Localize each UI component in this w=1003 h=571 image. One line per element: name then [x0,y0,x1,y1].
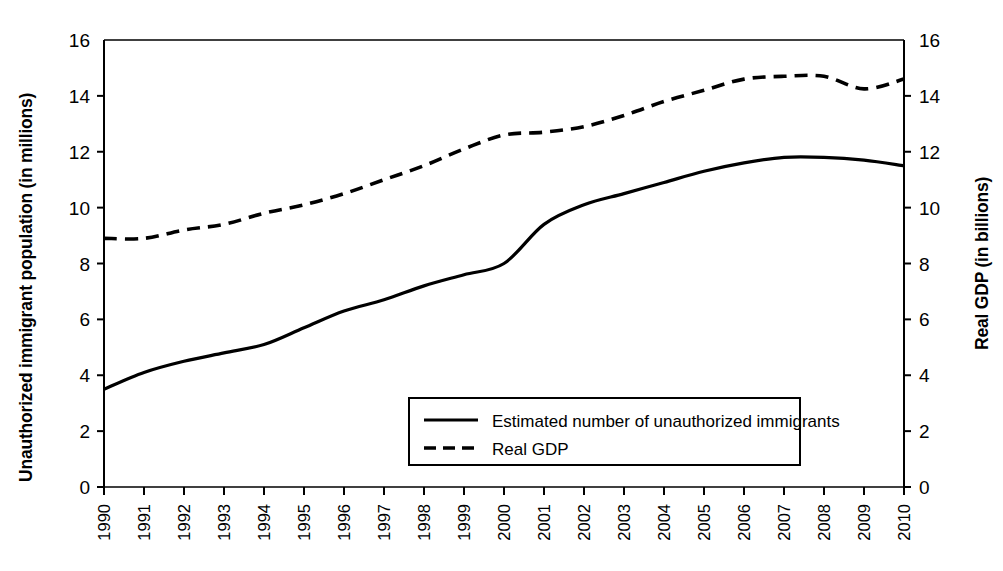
x-tick-label: 2006 [735,504,753,541]
left-tick-label: 14 [69,86,91,107]
right-tick-label: 16 [919,30,940,51]
x-tick-label: 1993 [215,504,233,541]
right-tick-label: 6 [919,309,930,330]
left-axis-ticks: 0246810121416 [69,30,104,498]
x-tick-label: 1991 [135,504,153,541]
x-axis-ticks: 1990199119921993199419951996199719981999… [95,487,913,541]
left-axis-title: Unauthorized immigrant population (in mi… [16,93,36,482]
series-line-unauthorized-immigrants [104,157,904,389]
left-tick-label: 4 [79,365,90,386]
right-tick-label: 8 [919,254,930,275]
right-tick-label: 2 [919,421,930,442]
left-tick-label: 12 [69,142,90,163]
x-tick-label: 1990 [95,504,113,541]
right-axis-ticks: 0246810121416 [904,30,941,498]
legend-box [409,398,800,465]
x-tick-label: 2002 [575,504,593,541]
right-axis-title: Real GDP (in billions) [972,177,992,350]
left-tick-label: 10 [69,198,90,219]
x-tick-label: 1992 [175,504,193,541]
x-tick-label: 2009 [855,504,873,541]
x-tick-label: 2010 [895,504,913,541]
x-tick-label: 2003 [615,504,633,541]
x-tick-label: 2005 [695,504,713,541]
x-tick-label: 1994 [255,504,273,541]
right-tick-label: 10 [919,198,940,219]
legend-item-label-real-gdp: Real GDP [492,440,569,459]
series-layer [104,75,904,389]
legend-item-label-estimated-immigrants: Estimated number of unauthorized immigra… [492,412,840,431]
x-tick-label: 1999 [455,504,473,541]
right-tick-label: 0 [919,477,930,498]
x-tick-label: 2001 [535,504,553,541]
x-tick-label: 2007 [775,504,793,541]
left-tick-label: 0 [79,477,90,498]
x-tick-label: 1998 [415,504,433,541]
left-tick-label: 16 [69,30,90,51]
right-tick-label: 4 [919,365,930,386]
left-tick-label: 8 [79,254,90,275]
left-tick-label: 6 [79,309,90,330]
chart-figure: Unauthorized immigrant population (in mi… [0,0,1003,571]
x-tick-label: 2000 [495,504,513,541]
x-tick-label: 1996 [335,504,353,541]
x-tick-label: 1995 [295,504,313,541]
right-tick-label: 14 [919,86,941,107]
x-tick-label: 1997 [375,504,393,541]
chart-legend: Estimated number of unauthorized immigra… [409,398,840,465]
x-tick-label: 2008 [815,504,833,541]
dual-axis-line-chart: Unauthorized immigrant population (in mi… [0,0,1003,571]
right-tick-label: 12 [919,142,940,163]
left-tick-label: 2 [79,421,90,442]
x-tick-label: 2004 [655,504,673,541]
